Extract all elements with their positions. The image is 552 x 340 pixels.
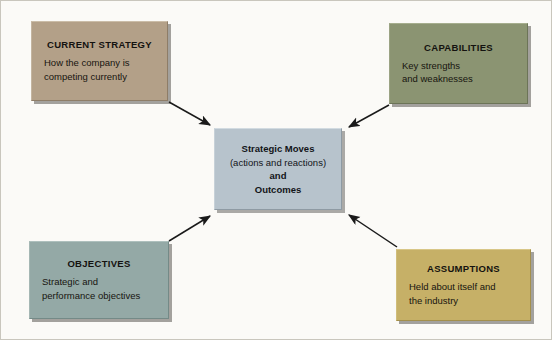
arrow-assumptions-to-center	[349, 215, 397, 247]
arrow-objectives-to-center	[169, 216, 210, 241]
center-line-and: and	[270, 169, 287, 183]
node-objectives-content: OBJECTIVES Strategic and performance obj…	[30, 242, 168, 318]
node-current-strategy[interactable]: CURRENT STRATEGY How the company is comp…	[31, 21, 168, 101]
node-strategic-moves[interactable]: Strategic Moves (actions and reactions) …	[214, 128, 342, 210]
node-current-strategy-content: CURRENT STRATEGY How the company is comp…	[32, 22, 167, 100]
node-current-strategy-body-line-2: competing currently	[44, 70, 155, 84]
node-capabilities[interactable]: CAPABILITIES Key strengths and weaknesse…	[389, 23, 528, 104]
node-assumptions-content: ASSUMPTIONS Held about itself and the in…	[397, 250, 530, 320]
node-objectives[interactable]: OBJECTIVES Strategic and performance obj…	[29, 241, 169, 319]
node-current-strategy-body-line-1: How the company is	[44, 56, 155, 70]
node-objectives-body-line-1: Strategic and	[42, 275, 156, 289]
node-assumptions[interactable]: ASSUMPTIONS Held about itself and the in…	[396, 249, 531, 321]
node-current-strategy-body: How the company is competing currently	[44, 56, 155, 83]
node-assumptions-body-line-2: the industry	[409, 294, 518, 308]
node-capabilities-title: CAPABILITIES	[402, 42, 515, 53]
center-line-actions-and-reactions: (actions and reactions)	[230, 156, 326, 170]
center-line-outcomes: Outcomes	[255, 183, 301, 197]
node-objectives-title: OBJECTIVES	[42, 258, 156, 269]
node-capabilities-body-line-1: Key strengths	[402, 59, 515, 73]
node-capabilities-body: Key strengths and weaknesses	[402, 59, 515, 86]
node-assumptions-body: Held about itself and the industry	[409, 280, 518, 307]
node-capabilities-content: CAPABILITIES Key strengths and weaknesse…	[390, 24, 527, 103]
center-line-strategic-moves: Strategic Moves	[242, 142, 315, 156]
arrow-capabilities-to-center	[349, 105, 389, 127]
node-objectives-body-line-2: performance objectives	[42, 289, 156, 303]
diagram-canvas: CURRENT STRATEGY How the company is comp…	[0, 0, 552, 340]
node-assumptions-title: ASSUMPTIONS	[409, 263, 518, 274]
node-capabilities-body-line-2: and weaknesses	[402, 72, 515, 86]
node-objectives-body: Strategic and performance objectives	[42, 275, 156, 302]
node-assumptions-body-line-1: Held about itself and	[409, 280, 518, 294]
arrow-current-strategy-to-center	[169, 102, 210, 125]
node-current-strategy-title: CURRENT STRATEGY	[44, 39, 155, 50]
